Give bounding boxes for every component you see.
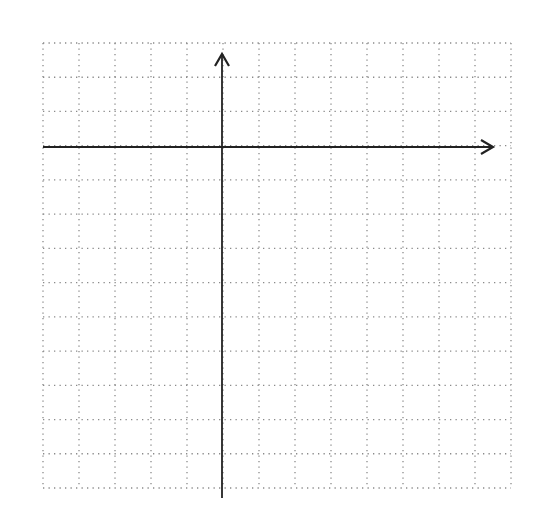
coordinate-grid xyxy=(0,0,542,522)
